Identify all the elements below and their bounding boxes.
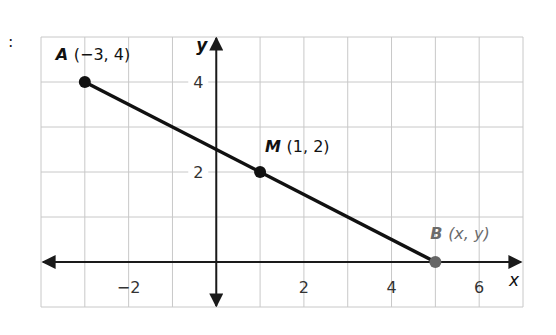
- x-tick-label: 6: [474, 278, 484, 297]
- x-tick-label: −2: [117, 278, 141, 297]
- point-m: [254, 166, 266, 178]
- y-tick-label: 4: [193, 73, 203, 92]
- axes: xy: [43, 35, 521, 306]
- x-tick-label: 4: [386, 278, 396, 297]
- grid-lines: [41, 37, 523, 307]
- y-axis-label: y: [196, 35, 208, 55]
- y-tick-label: 2: [193, 163, 203, 182]
- point-label-b: B (x, y): [430, 224, 489, 243]
- x-tick-label: 2: [299, 278, 309, 297]
- point-label-a: A (−3, 4): [54, 45, 130, 64]
- points: A (−3, 4)M (1, 2)B (x, y): [54, 45, 490, 268]
- point-b: [429, 256, 441, 268]
- point-label-m: M (1, 2): [265, 137, 330, 156]
- point-a: [79, 76, 91, 88]
- x-axis-label: x: [508, 270, 520, 290]
- coordinate-plane: xy −224624 A (−3, 4)M (1, 2)B (x, y): [0, 0, 556, 335]
